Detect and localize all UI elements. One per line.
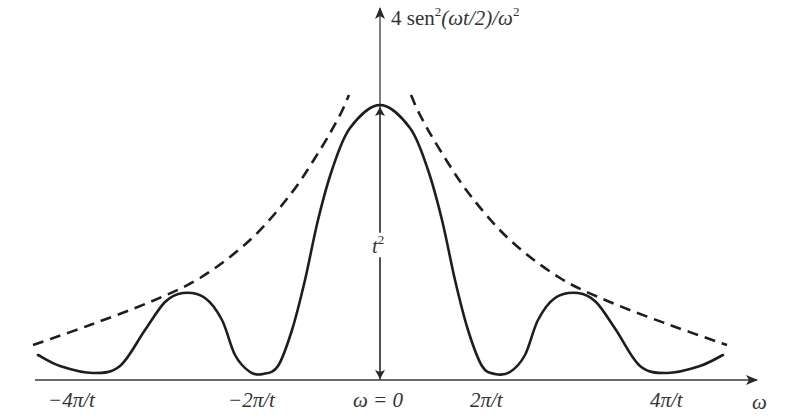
y-title-sup1: 2 bbox=[435, 4, 442, 19]
y-axis-title: 4 sen2(ωt/2)/ω2 bbox=[391, 8, 519, 29]
tick-label-neg2pi: −2π/t bbox=[228, 390, 275, 411]
sinc-squared-plot bbox=[0, 0, 798, 419]
tick-label-zero: ω = 0 bbox=[353, 390, 403, 411]
y-title-sup2: 2 bbox=[513, 4, 520, 19]
y-title-sen: 4 sen bbox=[391, 6, 435, 30]
peak-sup: 2 bbox=[378, 232, 385, 247]
tick-label-neg4pi: −4π/t bbox=[48, 390, 95, 411]
envelope-left-dashed bbox=[33, 95, 349, 345]
tick-label-pos4pi: 4π/t bbox=[650, 390, 683, 411]
x-axis-title: ω bbox=[752, 392, 767, 413]
envelope-right-dashed bbox=[411, 95, 727, 345]
y-title-mid: (ωt/2)/ω bbox=[441, 6, 513, 30]
tick-label-pos2pi: 2π/t bbox=[470, 390, 503, 411]
peak-t: t bbox=[372, 234, 378, 258]
peak-height-label: t2 bbox=[372, 236, 384, 257]
